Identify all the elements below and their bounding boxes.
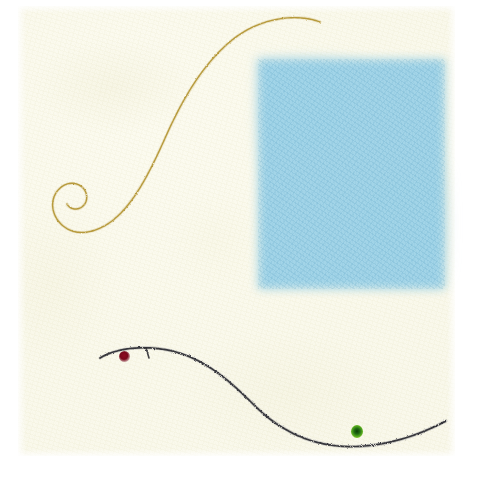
gold-curve-halo — [53, 18, 320, 233]
drawn-lines-layer — [0, 0, 480, 488]
green-dot-marker — [351, 425, 363, 438]
dark-curve-halo — [100, 348, 446, 447]
gold-curve-stroke — [53, 18, 320, 233]
red-dot-marker — [119, 351, 130, 362]
tick-mark-icon — [146, 348, 149, 358]
dark-curve-stroke — [100, 348, 446, 447]
gold-curve-group — [53, 18, 320, 233]
dark-curve-group — [100, 348, 446, 447]
artwork-canvas — [0, 0, 480, 488]
